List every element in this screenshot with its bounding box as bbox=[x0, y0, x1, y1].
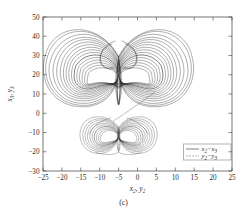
y-tick-label: −30 bbox=[28, 168, 40, 176]
x-tick-label: −5 bbox=[115, 174, 123, 182]
y-tick-label: 50 bbox=[32, 14, 40, 22]
x-tick-label: 25 bbox=[228, 174, 236, 182]
figure-caption: (c) bbox=[119, 198, 128, 207]
x-axis-title-y2-sub: 2 bbox=[143, 188, 146, 194]
y-tick-label: 40 bbox=[32, 33, 40, 41]
y-tick-label: 0 bbox=[36, 110, 40, 118]
y-axis-title-y3-sub: 3 bbox=[9, 86, 15, 89]
y-tick-label: −20 bbox=[28, 148, 40, 156]
x-tick-label: 20 bbox=[210, 174, 218, 182]
x-tick-label: 10 bbox=[172, 174, 180, 182]
y-tick-label: 30 bbox=[32, 52, 40, 60]
x-tick-label: 0 bbox=[136, 174, 140, 182]
figure-panel: −25 −20 −15 −10 −5 0 5 10 15 20 25 −30 −… bbox=[0, 0, 247, 211]
phase-portrait-chart: −25 −20 −15 −10 −5 0 5 10 15 20 25 −30 −… bbox=[0, 0, 247, 211]
x-tick-label: 15 bbox=[191, 174, 199, 182]
y-tick-label: 10 bbox=[32, 91, 40, 99]
y-tick-label: −10 bbox=[28, 129, 40, 137]
x-tick-label: −15 bbox=[75, 174, 87, 182]
x-tick-label: −10 bbox=[94, 174, 106, 182]
y-tick-label: 20 bbox=[32, 71, 40, 79]
x-tick-label: 5 bbox=[155, 174, 159, 182]
x-tick-label: −20 bbox=[56, 174, 68, 182]
